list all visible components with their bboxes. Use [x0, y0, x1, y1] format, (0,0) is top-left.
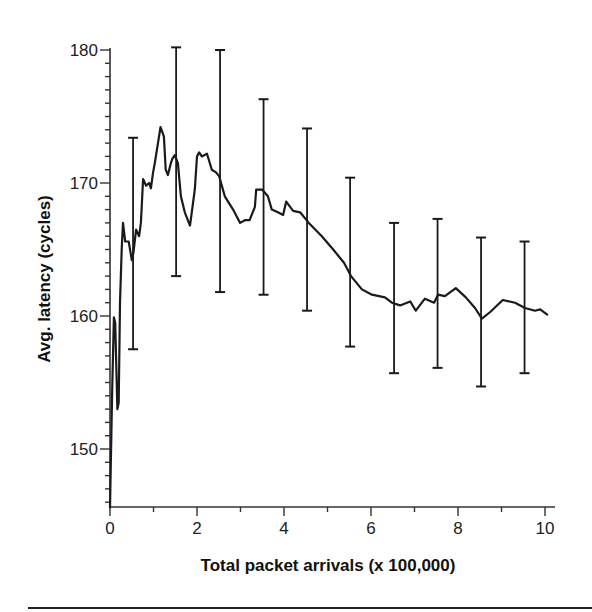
x-tick-label: 10	[536, 519, 555, 538]
y-tick-label: 180	[70, 41, 98, 60]
x-tick-label: 4	[279, 519, 288, 538]
x-tick-label: 2	[192, 519, 201, 538]
y-tick-label: 160	[70, 307, 98, 326]
x-axis-title: Total packet arrivals (x 100,000)	[201, 556, 456, 575]
y-tick-label: 150	[70, 440, 98, 459]
y-axis: 150160170180	[70, 41, 110, 508]
error-bar	[345, 178, 355, 347]
x-axis: 0246810	[105, 507, 555, 538]
y-tick-label: 170	[70, 174, 98, 193]
x-tick-label: 8	[453, 519, 462, 538]
error-bar	[389, 223, 399, 373]
error-bars	[128, 47, 530, 386]
latency-chart: 150160170180 0246810 Avg. latency (cycle…	[0, 0, 592, 612]
y-axis-title: Avg. latency (cycles)	[35, 195, 54, 363]
x-tick-label: 6	[366, 519, 375, 538]
x-tick-label: 0	[105, 519, 114, 538]
error-bar	[433, 219, 443, 368]
error-bar	[215, 50, 225, 292]
error-bar	[171, 47, 181, 276]
